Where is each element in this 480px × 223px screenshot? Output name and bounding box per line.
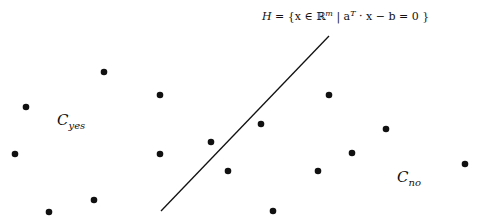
data-points xyxy=(12,69,469,216)
data-point xyxy=(208,139,215,146)
hyperplane-diagram: H = {x ∈ ℝm | aT · x − b = 0 } Cyes Cno xyxy=(0,0,480,223)
data-point xyxy=(157,151,164,158)
hyperplane-line xyxy=(161,36,329,211)
data-point xyxy=(225,168,232,175)
class-yes-label: Cyes xyxy=(57,111,85,131)
data-point xyxy=(46,209,53,216)
hyperplane-equation: H = {x ∈ ℝm | aT · x − b = 0 } xyxy=(261,9,429,24)
data-point xyxy=(101,69,108,76)
data-point xyxy=(157,92,164,99)
data-point xyxy=(12,151,19,158)
data-point xyxy=(383,126,390,133)
data-point xyxy=(23,104,30,111)
diagram-svg: H = {x ∈ ℝm | aT · x − b = 0 } Cyes Cno xyxy=(0,0,480,223)
data-point xyxy=(270,208,277,215)
data-point xyxy=(462,161,469,168)
class-no-label: Cno xyxy=(397,168,421,188)
data-point xyxy=(258,121,265,128)
data-point xyxy=(91,197,98,204)
data-point xyxy=(349,150,356,157)
data-point xyxy=(315,168,322,175)
data-point xyxy=(326,92,333,99)
